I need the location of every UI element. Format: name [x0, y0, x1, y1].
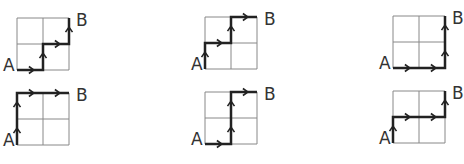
start-label-a: A [379, 130, 391, 147]
end-label-b: B [452, 85, 464, 102]
